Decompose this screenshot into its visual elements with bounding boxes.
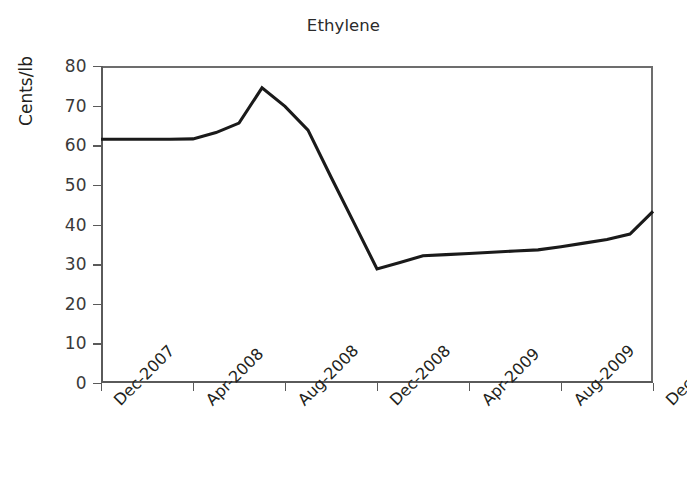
- y-tick-label-40: 40: [65, 214, 96, 234]
- x-tick-apr-2008: [193, 383, 194, 391]
- x-tick-apr-2009: [469, 383, 470, 391]
- y-tick-label-80: 80: [65, 56, 96, 76]
- y-tick-label-30: 30: [65, 254, 96, 274]
- x-tick-label-dec-2008: Dec-2008: [386, 396, 399, 409]
- x-tick-dec-2008: [377, 383, 378, 391]
- y-tick-label-10: 10: [65, 333, 96, 353]
- x-tick-label-aug-2008: Aug-2008: [294, 396, 307, 409]
- x-tick-aug-2009: [561, 383, 562, 391]
- x-tick-label-dec-2009: Dec-2009: [662, 396, 675, 409]
- x-tick-label-apr-2008: Apr-2008: [202, 396, 215, 409]
- x-tick-dec-2009: [653, 383, 654, 391]
- y-tick-label-70: 70: [65, 95, 96, 115]
- y-tick-label-50: 50: [65, 174, 96, 194]
- x-tick-dec-2007: [101, 383, 102, 391]
- y-tick-label-60: 60: [65, 135, 96, 155]
- chart-title: Ethylene: [0, 16, 687, 35]
- y-tick-label-20: 20: [65, 293, 96, 313]
- x-tick-label-dec-2007: Dec-2007: [110, 396, 123, 409]
- series-layer: [101, 66, 653, 383]
- x-tick-label-aug-2009: Aug-2009: [570, 396, 583, 409]
- x-tick-label-apr-2009: Apr-2009: [478, 396, 491, 409]
- line-series-ethylene: [101, 88, 653, 269]
- plot-area: 01020304050607080 Dec-2007Apr-2008Aug-20…: [101, 66, 653, 383]
- y-tick-label-0: 0: [76, 373, 96, 393]
- x-tick-aug-2008: [285, 383, 286, 391]
- chart-figure: Ethylene Cents/lb 01020304050607080 Dec-…: [0, 0, 687, 492]
- y-axis-title: Cents/lb: [16, 6, 42, 176]
